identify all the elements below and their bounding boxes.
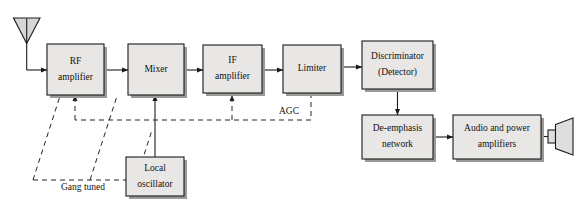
block-label-audio-power-line2: amplifiers bbox=[478, 139, 517, 149]
block-mixer[interactable]: Mixer bbox=[128, 44, 187, 98]
speaker-icon bbox=[548, 118, 573, 155]
block-label-rf-amplifier-line2: amplifier bbox=[58, 72, 94, 82]
block-label-rf-amplifier-line1: RF bbox=[70, 56, 82, 66]
antenna-icon bbox=[14, 18, 41, 70]
agc-label: AGC bbox=[279, 106, 299, 116]
block-label-if-amplifier-line2: amplifier bbox=[215, 71, 251, 81]
block-discriminator[interactable]: Discriminator (Detector) bbox=[362, 41, 436, 92]
block-label-de-emphasis-line2: network bbox=[382, 139, 413, 149]
block-label-audio-power-line1: Audio and power bbox=[464, 123, 531, 133]
block-label-local-oscillator-line1: Local bbox=[144, 163, 166, 173]
block-label-de-emphasis-line1: De-emphasis bbox=[373, 123, 423, 133]
fm-receiver-block-diagram: RF amplifier Mixer IF amplifier Limiter … bbox=[0, 0, 585, 212]
block-de-emphasis-network[interactable]: De-emphasis network bbox=[362, 115, 436, 162]
block-label-discriminator-line1: Discriminator bbox=[371, 51, 425, 61]
block-if-amplifier[interactable]: IF amplifier bbox=[203, 45, 265, 96]
block-label-local-oscillator-line2: oscillator bbox=[137, 179, 173, 189]
diagram-canvas: RF amplifier Mixer IF amplifier Limiter … bbox=[0, 0, 585, 212]
block-label-limiter-line1: Limiter bbox=[298, 63, 327, 73]
block-label-if-amplifier-line1: IF bbox=[228, 55, 236, 65]
block-audio-power-amplifiers[interactable]: Audio and power amplifiers bbox=[453, 115, 544, 162]
gang-tuned-label: Gang tuned bbox=[61, 182, 105, 192]
block-local-oscillator[interactable]: Local oscillator bbox=[126, 157, 187, 199]
block-rf-amplifier[interactable]: RF amplifier bbox=[47, 44, 107, 98]
block-label-mixer-line1: Mixer bbox=[144, 64, 168, 74]
block-label-discriminator-line2: (Detector) bbox=[378, 67, 417, 78]
block-limiter[interactable]: Limiter bbox=[283, 45, 344, 96]
